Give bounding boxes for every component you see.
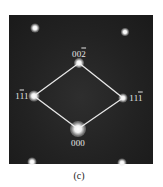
label-1-11-suffix: 1 — [24, 91, 29, 101]
label-002-main: 00 — [72, 49, 81, 59]
label-000-main: 000 — [71, 138, 85, 148]
label-11-1-bar: 1 — [138, 93, 143, 103]
outer-spot-top-left — [31, 24, 40, 33]
reflection-spot-1-11 — [29, 91, 40, 102]
outer-spot-bottom-left — [28, 158, 37, 167]
reflection-spot-000 — [70, 121, 86, 137]
label-1-11: 111 — [15, 92, 28, 101]
reflection-spot-11-1 — [119, 94, 128, 103]
label-000: 000 — [71, 139, 85, 148]
label-002-bar: 2 — [81, 49, 86, 59]
outer-spot-top-right — [121, 28, 129, 36]
label-11-1-main: 11 — [129, 93, 138, 103]
label-11-1: 111 — [129, 94, 142, 103]
outer-spot-bottom-right — [118, 159, 127, 168]
label-002: 002 — [72, 50, 86, 59]
figure-caption: (c) — [73, 170, 84, 181]
reflection-spot-002 — [74, 58, 84, 68]
